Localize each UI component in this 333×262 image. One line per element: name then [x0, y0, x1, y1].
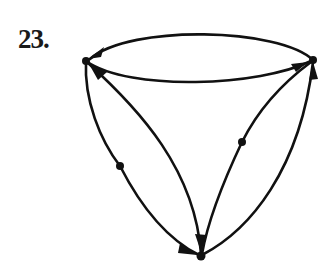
edge-left-inner-arc: [88, 63, 201, 254]
arrowhead-icon: [309, 62, 318, 80]
node-left: [82, 57, 90, 65]
arrowhead-icon: [88, 47, 104, 59]
edge-left-outer-arc: [86, 61, 199, 255]
node-right: [309, 56, 317, 64]
node-bottom: [197, 252, 206, 261]
digraph: [0, 0, 333, 262]
node-left-mid: [116, 162, 124, 170]
edge-right-inner-arc: [202, 62, 311, 254]
edge-top-upper-arc: [90, 34, 313, 60]
edge-top-lower-arc: [86, 61, 311, 82]
arrowhead-icon: [178, 243, 197, 255]
node-right-mid: [238, 138, 246, 146]
edge-right-outer-arc: [202, 62, 313, 255]
